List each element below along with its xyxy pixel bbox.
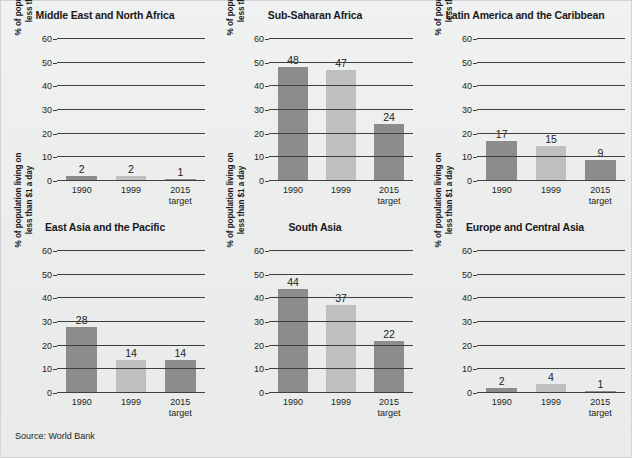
gridline: 30 <box>57 109 205 110</box>
bar[interactable] <box>486 141 517 181</box>
y-tick-mark <box>53 181 57 182</box>
y-tick-mark <box>473 346 477 347</box>
y-tick-label: 20 <box>462 341 472 351</box>
y-axis-caption: % of population living onless than $1 a … <box>13 127 39 273</box>
bar-value-label: 1 <box>177 166 183 178</box>
bar[interactable] <box>116 360 147 393</box>
x-tick-label: 1990 <box>283 185 303 196</box>
gridline: 40 <box>269 297 413 298</box>
x-tick-label-line: 1990 <box>492 397 512 408</box>
x-axis-baseline: 0 <box>57 392 205 393</box>
bar[interactable] <box>278 289 308 393</box>
x-tick-label: 2015target <box>377 397 400 419</box>
x-tick-label: 1999 <box>331 185 351 196</box>
bar[interactable] <box>585 160 616 181</box>
y-tick-mark <box>53 251 57 252</box>
y-tick-label: 0 <box>467 388 472 398</box>
plot-inner: 0102030405060481990471999242015target <box>269 39 413 181</box>
y-tick-mark <box>473 322 477 323</box>
y-tick-label: 10 <box>254 152 264 162</box>
bar-group: 281990141999142015target <box>57 251 205 393</box>
chart-panel: East Asia and the Pacific% of population… <box>1 213 213 421</box>
y-axis-caption: % of population living onless than $1 a … <box>433 127 459 273</box>
bar[interactable] <box>326 305 356 393</box>
y-tick-mark <box>473 181 477 182</box>
bar-value-label: 4 <box>548 371 554 383</box>
y-tick-label: 0 <box>47 176 52 186</box>
gridline: 60 <box>477 250 625 251</box>
x-tick-label-line: 1999 <box>331 397 351 408</box>
y-tick-mark <box>265 393 269 394</box>
y-tick-label: 40 <box>254 81 264 91</box>
x-tick-label: 1990 <box>283 397 303 408</box>
y-tick-label: 40 <box>462 81 472 91</box>
bar-group: 481990471999242015target <box>269 39 413 181</box>
bar-value-label: 24 <box>383 111 395 123</box>
y-tick-label: 60 <box>254 246 264 256</box>
y-tick-mark <box>265 346 269 347</box>
x-tick-label-line: target <box>589 196 612 207</box>
gridline: 20 <box>477 133 625 134</box>
x-tick-label-line: target <box>589 408 612 419</box>
y-tick-label: 10 <box>254 364 264 374</box>
x-axis-baseline: 0 <box>269 392 413 393</box>
y-tick-label: 50 <box>42 270 52 280</box>
y-axis-caption-line2: less than $1 a day <box>444 127 455 273</box>
x-tick-label: 1990 <box>492 397 512 408</box>
bar[interactable] <box>165 360 196 393</box>
bar-group: 441990371999222015target <box>269 251 413 393</box>
y-tick-label: 40 <box>462 293 472 303</box>
y-tick-mark <box>53 86 57 87</box>
bar[interactable] <box>374 341 404 393</box>
plot-area: 0102030405060219904199912015target <box>477 243 625 393</box>
x-tick-label-line: 2015 <box>589 397 612 408</box>
plot-area: 0102030405060219902199912015target <box>57 31 205 181</box>
bar[interactable] <box>536 146 567 182</box>
gridline: 20 <box>477 345 625 346</box>
y-axis-caption-line2: less than $1 a day <box>236 127 247 273</box>
gridline: 50 <box>57 62 205 63</box>
bar-value-label: 14 <box>125 347 137 359</box>
y-axis-caption: % of population living onless than $1 a … <box>13 0 39 61</box>
y-tick-label: 50 <box>462 270 472 280</box>
y-axis-caption-line2: less than $1 a day <box>444 0 455 61</box>
x-tick-label-line: 1999 <box>331 185 351 196</box>
plot-inner: 0102030405060281990141999142015target <box>57 251 205 393</box>
gridline: 40 <box>477 85 625 86</box>
plot-inner: 0102030405060219902199912015target <box>57 39 205 181</box>
bar[interactable] <box>66 327 97 393</box>
bar-value-label: 2 <box>499 375 505 387</box>
gridline: 30 <box>269 109 413 110</box>
x-tick-label-line: 2015 <box>377 397 400 408</box>
y-tick-mark <box>265 298 269 299</box>
y-tick-mark <box>53 298 57 299</box>
y-tick-mark <box>265 275 269 276</box>
x-tick-label-line: 1990 <box>283 397 303 408</box>
bar[interactable] <box>326 70 356 181</box>
x-tick-label: 2015target <box>169 185 192 207</box>
y-axis-caption-line1: % of population living on <box>225 127 236 273</box>
gridline: 20 <box>57 345 205 346</box>
chart-panel: Europe and Central Asia% of population l… <box>421 213 632 421</box>
y-tick-mark <box>265 322 269 323</box>
y-axis-caption-line1: % of population living on <box>433 0 444 61</box>
y-tick-mark <box>53 275 57 276</box>
y-axis-caption-line1: % of population living on <box>13 0 24 61</box>
y-tick-label: 30 <box>254 105 264 115</box>
y-tick-label: 50 <box>42 58 52 68</box>
bar-value-label: 1 <box>597 378 603 390</box>
x-tick-label: 2015target <box>377 185 400 207</box>
gridline: 60 <box>269 38 413 39</box>
x-tick-label: 2015target <box>589 185 612 207</box>
y-tick-mark <box>265 86 269 87</box>
y-tick-label: 0 <box>467 176 472 186</box>
y-axis-caption: % of population living onless than $1 a … <box>225 0 251 61</box>
y-axis-caption-line1: % of population living on <box>13 127 24 273</box>
y-tick-label: 60 <box>42 34 52 44</box>
y-tick-label: 10 <box>42 152 52 162</box>
y-tick-label: 50 <box>254 270 264 280</box>
plot-area: 0102030405060481990471999242015target <box>269 31 413 181</box>
y-tick-label: 20 <box>254 129 264 139</box>
x-tick-label: 1990 <box>72 185 92 196</box>
gridline: 60 <box>477 38 625 39</box>
